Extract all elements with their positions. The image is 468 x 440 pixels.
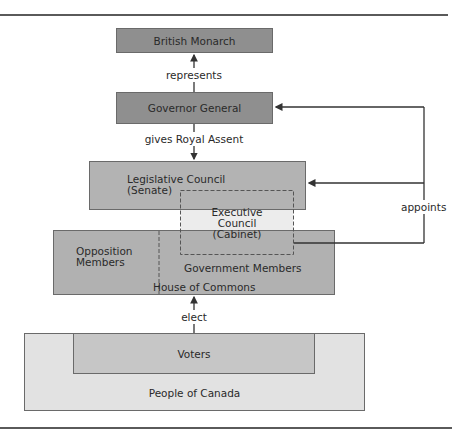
executive-label-3: (Cabinet) — [181, 228, 293, 240]
government-members-label: Government Members — [184, 262, 301, 274]
opposition-label-2: Members — [76, 256, 125, 268]
represents-label: represents — [144, 69, 244, 81]
appoints-label: appoints — [401, 201, 446, 213]
royal-assent-label: gives Royal Assent — [134, 133, 254, 145]
legislative-label-2: (Senate) — [127, 184, 172, 196]
elect-label: elect — [174, 311, 214, 323]
house-of-commons-label: House of Commons — [153, 281, 255, 293]
